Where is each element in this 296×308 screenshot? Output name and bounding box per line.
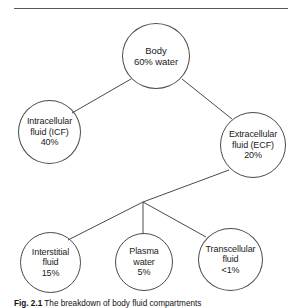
node-plasma-line-1: Plasma (129, 246, 158, 257)
node-trans-line-3: <1% (222, 265, 240, 276)
edge-body-to-icf (72, 79, 131, 113)
edge-body-to-ecf (182, 79, 232, 119)
node-trans-line-1: Transcellular (206, 244, 256, 255)
node-plasma-line-2: water (133, 257, 155, 268)
node-interstitial-fluid: Interstitial fluid 15% (20, 232, 81, 293)
figure-body-fluid-compartments: Body 60% water Intracellular fluid (ICF)… (0, 0, 296, 308)
edge-ecf-to-junction (143, 170, 229, 202)
node-icf-line-1: Intracellular (27, 116, 72, 127)
node-body-line-2: 60% water (134, 56, 178, 67)
node-plasma-water: Plasma water 5% (115, 233, 173, 291)
node-transcellular-fluid: Transcellular fluid <1% (198, 228, 263, 291)
node-icf-line-3: 40% (41, 137, 59, 148)
node-body-line-1: Body (145, 45, 166, 56)
node-ecf-line-3: 20% (244, 150, 262, 161)
figure-caption-text: The breakdown of body fluid compartments (44, 299, 201, 308)
node-icf-line-2: fluid (ICF) (30, 127, 68, 138)
node-isf-line-2: fluid (42, 257, 58, 268)
edge-junction-to-transcellular (143, 202, 206, 237)
node-extracellular-fluid: Extracellular fluid (ECF) 20% (220, 112, 286, 178)
node-ecf-line-2: fluid (ECF) (232, 140, 274, 151)
node-trans-line-2: fluid (222, 254, 238, 265)
figure-caption: Fig. 2.1 The breakdown of body fluid com… (14, 299, 286, 308)
node-intracellular-fluid: Intracellular fluid (ICF) 40% (18, 100, 81, 164)
figure-caption-label: Fig. 2.1 (14, 299, 42, 308)
node-body: Body 60% water (122, 23, 190, 89)
node-ecf-line-1: Extracellular (229, 129, 277, 140)
node-plasma-line-3: 5% (138, 267, 151, 278)
node-isf-line-1: Interstitial (32, 247, 69, 258)
node-isf-line-3: 15% (42, 268, 60, 279)
